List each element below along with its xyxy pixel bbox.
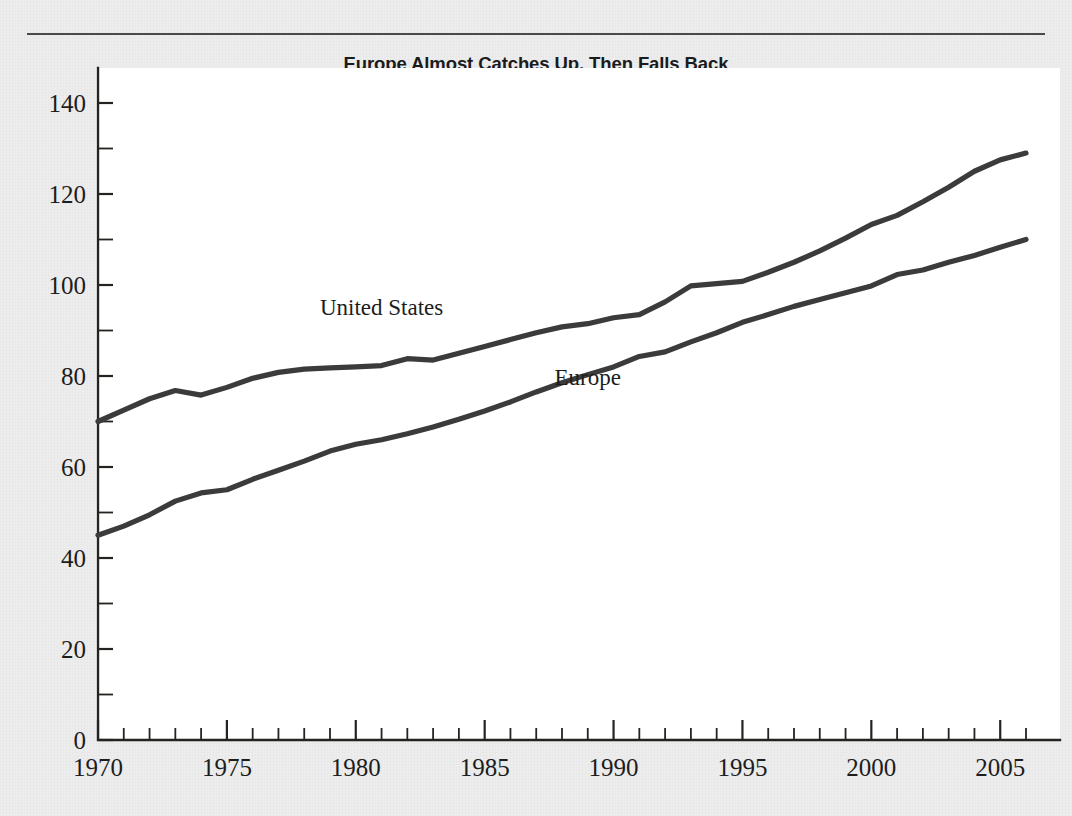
- x-axis-label-1985: 1985: [460, 754, 510, 781]
- x-axis-label-2000: 2000: [846, 754, 896, 781]
- line-chart: 0204060801001201401970197519801985199019…: [0, 33, 1072, 816]
- figure-container: Europe Almost Catches Up, Then Falls Bac…: [0, 33, 1072, 816]
- x-axis-label-2005: 2005: [975, 754, 1025, 781]
- series-label-europe: Europe: [555, 365, 621, 390]
- series-label-united-states: United States: [320, 295, 443, 320]
- y-axis-label-40: 40: [61, 545, 86, 572]
- y-axis-label-120: 120: [49, 181, 87, 208]
- x-axis-label-1980: 1980: [331, 754, 381, 781]
- y-axis-label-80: 80: [61, 363, 86, 390]
- y-axis-label-100: 100: [49, 272, 87, 299]
- x-axis-label-1995: 1995: [717, 754, 767, 781]
- y-axis-label-60: 60: [61, 454, 86, 481]
- y-axis-label-20: 20: [61, 636, 86, 663]
- y-axis-label-0: 0: [74, 727, 87, 754]
- y-axis-label-140: 140: [49, 90, 87, 117]
- x-axis-label-1970: 1970: [73, 754, 123, 781]
- x-axis-label-1990: 1990: [589, 754, 639, 781]
- plot-area-background: [96, 68, 1060, 740]
- x-axis-label-1975: 1975: [202, 754, 252, 781]
